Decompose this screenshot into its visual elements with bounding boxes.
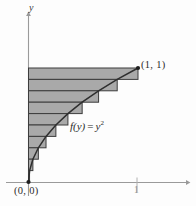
x-axis-tick-label: 1	[134, 186, 139, 196]
figure-container: y (1, 1) (0, 0) 1 f(y)=y2	[0, 0, 196, 206]
function-exponent: 2	[100, 119, 104, 127]
corner-point-label: (1, 1)	[141, 60, 166, 71]
point-marker-1-1	[136, 66, 140, 70]
function-annotation: f(y)=y2	[70, 120, 104, 132]
plot-canvas	[0, 0, 196, 206]
y-axis-label: y	[29, 3, 33, 13]
rectangle-strip-9	[29, 79, 118, 90]
rectangle-strip-8	[29, 91, 99, 102]
rectangle-strip-4	[29, 136, 47, 147]
point-marker-0-0	[26, 180, 30, 184]
equals-sign: =	[85, 120, 95, 132]
origin-label: (0, 0)	[14, 186, 39, 197]
function-name: f(y)	[70, 120, 85, 132]
